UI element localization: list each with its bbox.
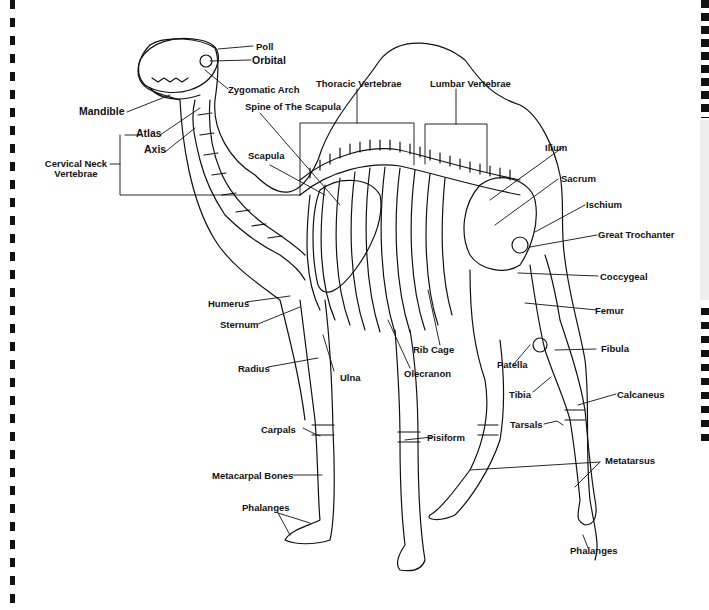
vertebral-processes [310,140,510,180]
label-calcaneus: Calcaneus [617,389,665,400]
label-lumbar-vertebrae: Lumbar Vertebrae [430,78,511,89]
label-mandible: Mandible [79,106,125,117]
pelvis [464,178,536,270]
label-axis: Axis [144,144,166,155]
rear-leg-far [530,255,596,525]
label-metacarpal-bones: Metacarpal Bones [212,470,293,481]
label-ulna: Ulna [340,372,361,383]
label-radius: Radius [238,363,270,374]
label-scapula: Scapula [248,150,284,161]
label-zygomatic-arch: Zygomatic Arch [228,84,299,95]
label-orbital: Orbital [252,55,286,66]
leader-lines [110,46,616,548]
diagram-page: Poll Orbital Zygomatic Arch Mandible Atl… [0,0,709,610]
label-tibia: Tibia [509,389,531,400]
label-ischium: Ischium [586,199,622,210]
label-rib-cage: Rib Cage [413,344,454,355]
label-phalanges-front: Phalanges [242,502,290,513]
label-sternum: Sternum [220,319,259,330]
label-sacrum: Sacrum [561,173,596,184]
label-ilium: Ilium [545,142,567,153]
skull [138,38,218,92]
label-tarsals: Tarsals [510,419,543,430]
label-humerus: Humerus [208,298,249,309]
label-olecranon: Olecranon [404,368,451,379]
front-leg-near [285,300,334,544]
label-metatarsus: Metatarsus [605,455,655,466]
label-carpals: Carpals [261,424,296,435]
front-leg-far [395,330,425,571]
label-patella: Patella [497,359,528,370]
label-great-trochanter: Great Trochanter [598,229,675,240]
label-pisiform: Pisiform [427,432,465,443]
label-phalanges-rear: Phalanges [570,545,618,556]
label-fibula: Fibula [601,343,629,354]
label-coccygeal: Coccygeal [600,271,648,282]
label-thoracic-vertebrae: Thoracic Vertebrae [316,78,402,89]
label-femur: Femur [595,305,624,316]
rear-leg-near [429,270,504,520]
label-cervical-vertebrae: Vertebrae [40,168,112,179]
label-poll: Poll [256,41,273,52]
label-spine-of-scapula: Spine of The Scapula [245,101,341,112]
label-atlas: Atlas [136,128,162,139]
